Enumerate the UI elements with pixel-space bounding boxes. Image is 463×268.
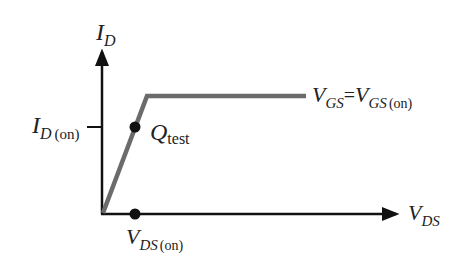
mosfet-characteristic-diagram: ID ID(on) Qtest VGS=VGS(on) VDS VDS(on) [0, 0, 463, 268]
id-on-label: ID(on) [31, 112, 80, 143]
vgs-on-label: VGS=VGS(on) [312, 82, 413, 112]
vgs-on-curve [103, 96, 306, 213]
vds-on-label: VDS(on) [126, 224, 183, 254]
y-axis-label: ID [95, 19, 116, 49]
vds-on-point [130, 209, 141, 220]
q-test-label: Qtest [150, 119, 190, 147]
q-test-point [130, 122, 141, 133]
x-axis-label: VDS [408, 200, 440, 229]
